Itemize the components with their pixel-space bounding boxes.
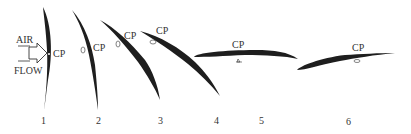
position-number-6: 6 — [346, 116, 351, 127]
force-arrow-3 — [116, 41, 120, 47]
airfoil-cp-diagram: AIR FLOW CP CP CP CP CP CP 1 2 3 4 5 6 — [0, 0, 411, 134]
airfoil-4 — [140, 31, 220, 96]
force-arrow-4 — [150, 40, 156, 44]
airfoil-2 — [72, 10, 98, 110]
position-number-1: 1 — [41, 115, 46, 126]
cp-label-3: CP — [124, 30, 137, 41]
cp-label-2: CP — [93, 42, 106, 53]
force-arrow-6 — [354, 60, 360, 63]
airfoil-1 — [43, 7, 51, 110]
cp-label-5: CP — [232, 39, 245, 50]
air-flow-arrow — [18, 43, 47, 63]
position-number-5: 5 — [259, 115, 264, 126]
force-arrow-5 — [236, 59, 242, 62]
cp-label-6: CP — [352, 42, 365, 53]
cp-point-1 — [48, 53, 50, 55]
cp-label-4: CP — [156, 25, 169, 36]
position-number-3: 3 — [158, 115, 163, 126]
position-number-2: 2 — [96, 115, 101, 126]
air-label: AIR — [16, 34, 34, 45]
flow-label: FLOW — [14, 65, 43, 76]
airfoil-6 — [297, 53, 395, 70]
cp-label-1: CP — [53, 48, 66, 59]
position-number-4: 4 — [214, 115, 219, 126]
airfoil-5 — [194, 50, 298, 59]
force-arrow-2 — [81, 47, 85, 53]
